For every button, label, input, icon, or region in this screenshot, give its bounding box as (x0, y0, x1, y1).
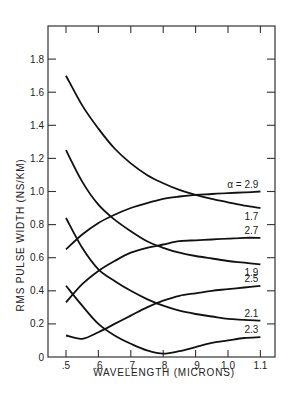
curve-label: 2.3 (244, 324, 258, 335)
y-tick-label: 1.0 (30, 186, 44, 197)
y-tick-label: 1.8 (30, 54, 44, 65)
y-tick-label: 1.6 (30, 87, 44, 98)
y-tick-label: 0.2 (30, 318, 44, 329)
x-tick-label: 1.1 (253, 360, 267, 371)
curve-label: α = 2.9 (227, 179, 259, 190)
curve-label: 2.7 (244, 225, 258, 236)
curve-alpha-1-9 (66, 150, 260, 264)
curves (66, 76, 260, 354)
pulse-width-chart: .5.6.7.8.91.01.100.20.40.60.81.01.21.41.… (0, 0, 291, 399)
curve-label: 1.7 (244, 211, 258, 222)
x-tick-label: .5 (62, 360, 71, 371)
y-tick-label: 1.2 (30, 153, 44, 164)
chart-svg: .5.6.7.8.91.01.100.20.40.60.81.01.21.41.… (0, 0, 291, 399)
y-tick-label: 0.8 (30, 219, 44, 230)
curve-alpha-2-5 (66, 286, 260, 339)
y-tick-label: 0.6 (30, 252, 44, 263)
y-tick-label: 0 (38, 352, 44, 363)
y-axis-label: RMS PULSE WIDTH (NS/KM) (15, 159, 26, 312)
curve-label: 2.1 (244, 308, 258, 319)
x-axis-label: WAVELENGTH (MICRONS) (93, 367, 235, 378)
curve-labels: 1.71.92.12.32.52.7α = 2.9 (227, 179, 259, 336)
plot-frame (48, 26, 275, 357)
curve-alpha-2-1 (66, 218, 260, 321)
y-tick-label: 0.4 (30, 285, 44, 296)
y-tick-label: 1.4 (30, 120, 44, 131)
curve-label: 2.5 (244, 273, 258, 284)
